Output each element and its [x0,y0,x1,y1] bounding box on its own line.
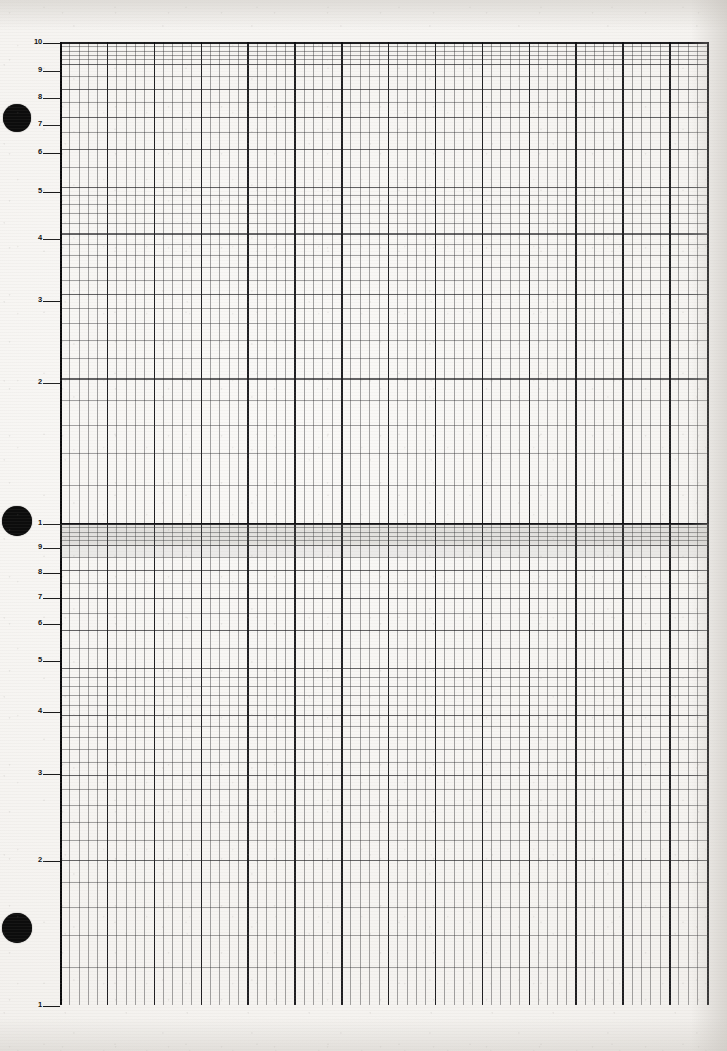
grid-vline [294,42,296,1005]
y-axis-tick-mark [43,383,60,384]
grid-vline [229,42,230,1005]
grid-hline [60,613,709,614]
grid-vline [388,42,390,1005]
grid-vline [650,42,651,1005]
grid-hline [60,64,709,65]
grid-hline [60,860,709,861]
y-axis-tick-label: 8 [35,568,42,576]
grid-hline [60,967,709,968]
grid-hline [60,323,709,324]
grid-vline [144,42,145,1005]
y-axis-tick-label: 5 [35,656,42,664]
grid-vline [500,42,501,1005]
grid-frame-left [60,42,62,1005]
grid-vline [191,42,192,1005]
grid-vline [341,42,343,1005]
grid-hline [60,340,709,341]
grid-hline [60,453,709,454]
y-axis-tick-label: 8 [35,93,42,101]
y-axis-tick-mark [43,774,60,775]
grid-vline [472,42,473,1005]
grid-vline [219,42,220,1005]
y-axis-tick-label: 7 [35,120,42,128]
y-axis-tick-mark [43,624,60,625]
grid-vline [575,42,577,1005]
grid-vline [379,42,380,1005]
grid-hline [60,425,709,426]
grid-hline [60,677,709,678]
grid-vline [519,42,520,1005]
grid-vline [707,42,708,1005]
y-axis-tick-mark [43,125,60,126]
grid-vline [444,42,445,1005]
grid-vline [425,42,426,1005]
grid-vline [210,42,211,1005]
grid-vline [632,42,633,1005]
grid-vline [79,42,80,1005]
grid-hline [60,598,709,599]
grid-vline [585,42,586,1005]
grid-hline [60,204,709,205]
grid-vline [529,42,531,1005]
grid-hline [60,668,709,669]
y-axis-tick-label: 3 [35,296,42,304]
grid-vline [397,42,398,1005]
grid-hline [60,705,709,706]
grid-hline [60,882,709,883]
grid-hline [60,51,709,52]
grid-hline [60,195,709,196]
grid-hline [60,233,709,234]
grid-vline [369,42,370,1005]
grid-hline [60,523,709,524]
grid-hline [60,267,709,268]
grid-hline [60,762,709,763]
grid-vline [116,42,117,1005]
grid-hline [60,686,709,687]
grid-hline [60,167,709,168]
graph-paper-page: 10987654321987654321 [0,0,727,1051]
grid-vline [238,42,239,1005]
y-axis-tick-label: 10 [29,38,42,46]
grid-vline [454,42,455,1005]
grid-vline [566,42,567,1005]
punch-hole-top [3,104,31,132]
grid-hline [60,187,709,188]
grid-hline [60,89,709,90]
grid-hline [60,583,709,584]
grid-vline [201,42,203,1005]
y-axis-tick-label: 5 [35,187,42,195]
y-axis-tick-mark [43,239,60,240]
grid-hline [60,840,709,841]
punch-hole-middle [2,506,32,536]
grid-vline [266,42,267,1005]
grid-hline [60,117,709,118]
y-axis-tick-mark [43,43,60,44]
grid-hline [60,935,709,936]
grid-vline [322,42,323,1005]
grid-vline [304,42,305,1005]
grid-hline [60,907,709,908]
grid-vline [88,42,89,1005]
y-axis-tick-mark [43,524,60,525]
grid-hline [60,280,709,281]
grid-vline [641,42,642,1005]
grid-hline [60,76,709,77]
grid-hline [60,545,709,546]
grid-vline [69,42,70,1005]
grid-hline [60,648,709,649]
grid-vline [697,42,698,1005]
grid-vline [557,42,558,1005]
grid-hline [60,59,709,60]
y-axis-tick-label: 2 [35,378,42,386]
grid-vline [407,42,408,1005]
grid-vline [257,42,258,1005]
y-axis-tick-label: 9 [35,66,42,74]
y-axis-tick-label: 9 [35,543,42,551]
grid-hline [60,523,709,525]
grid-hline [60,570,709,571]
y-axis-tick-mark [43,712,60,713]
grid-hline [60,102,709,103]
grid-vline [669,42,671,1005]
grid-hline [60,749,709,750]
grid-hline [60,532,709,533]
